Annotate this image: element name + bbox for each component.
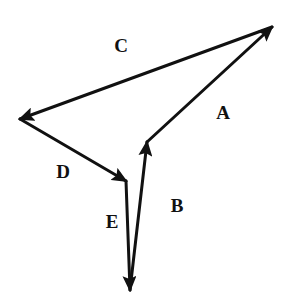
vector-label-e: E	[106, 212, 119, 231]
vector-label-d: D	[56, 162, 70, 181]
vector-diagram: C A D E B	[0, 0, 288, 307]
vector-diagram-canvas	[0, 0, 288, 307]
vector-group	[20, 27, 272, 290]
vector-arrow-a	[147, 27, 272, 142]
vector-arrow-c	[20, 27, 272, 119]
vector-label-a: A	[216, 103, 230, 122]
vector-arrow-d	[20, 119, 126, 181]
vector-label-b: B	[171, 196, 184, 215]
vector-arrow-b	[130, 142, 147, 290]
vector-arrow-e	[126, 181, 130, 290]
vector-label-c: C	[114, 36, 128, 55]
